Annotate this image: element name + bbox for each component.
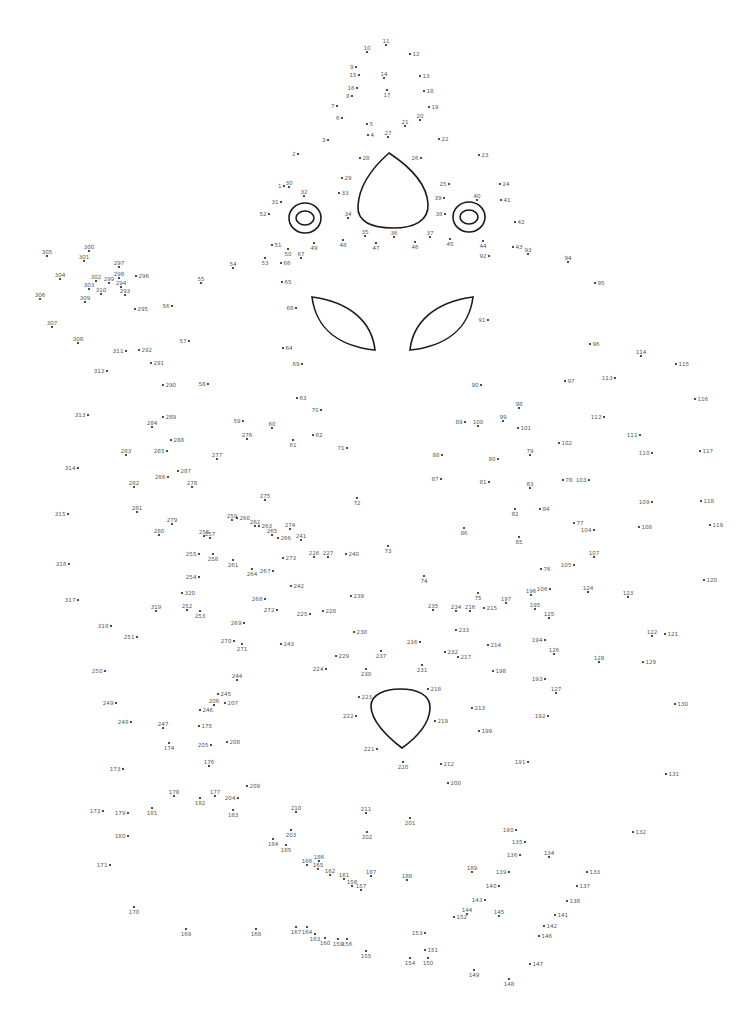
dot-marker[interactable] bbox=[134, 308, 136, 310]
dot-marker[interactable] bbox=[177, 470, 179, 472]
dot-marker[interactable] bbox=[84, 301, 86, 303]
dot-marker[interactable] bbox=[558, 442, 560, 444]
dot-marker[interactable] bbox=[327, 139, 329, 141]
dot-marker[interactable] bbox=[136, 511, 138, 513]
dot-marker[interactable] bbox=[254, 525, 256, 527]
dot-marker[interactable] bbox=[289, 528, 291, 530]
dot-marker[interactable] bbox=[243, 622, 245, 624]
dot-86[interactable]: 86 bbox=[460, 527, 468, 536]
dot-marker[interactable] bbox=[387, 136, 389, 138]
dot-marker[interactable] bbox=[500, 199, 502, 201]
dot-marker[interactable] bbox=[492, 670, 494, 672]
dot-marker[interactable] bbox=[186, 609, 188, 611]
dot-25[interactable]: 25 bbox=[439, 181, 450, 187]
dot-2[interactable]: 2 bbox=[292, 151, 299, 157]
dot-marker[interactable] bbox=[325, 668, 327, 670]
dot-marker[interactable] bbox=[498, 915, 500, 917]
dot-marker[interactable] bbox=[102, 810, 104, 812]
dot-185[interactable]: 185 bbox=[281, 844, 292, 853]
dot-219[interactable]: 219 bbox=[434, 718, 449, 724]
dot-313[interactable]: 313 bbox=[75, 412, 89, 418]
dot-marker[interactable] bbox=[487, 644, 489, 646]
dot-125[interactable]: 125 bbox=[544, 611, 555, 619]
dot-109[interactable]: 109 bbox=[639, 499, 653, 505]
dot-96[interactable]: 96 bbox=[589, 341, 600, 347]
dot-marker[interactable] bbox=[246, 438, 248, 440]
dot-marker[interactable] bbox=[423, 90, 425, 92]
dot-marker[interactable] bbox=[216, 458, 218, 460]
dot-27[interactable]: 27 bbox=[384, 130, 392, 138]
dot-marker[interactable] bbox=[59, 278, 61, 280]
dot-95[interactable]: 95 bbox=[594, 280, 605, 286]
dot-marker[interactable] bbox=[598, 661, 600, 663]
dot-170[interactable]: 170 bbox=[129, 906, 140, 915]
dot-272[interactable]: 272 bbox=[264, 607, 278, 613]
dot-145[interactable]: 145 bbox=[494, 909, 505, 917]
dot-36[interactable]: 36 bbox=[390, 230, 398, 238]
dot-marker[interactable] bbox=[548, 856, 550, 858]
dot-52[interactable]: 52 bbox=[259, 211, 270, 217]
dot-155[interactable]: 155 bbox=[361, 950, 372, 959]
dot-190[interactable]: 190 bbox=[503, 827, 517, 833]
dot-marker[interactable] bbox=[104, 670, 106, 672]
dot-marker[interactable] bbox=[499, 183, 501, 185]
dot-244[interactable]: 244 bbox=[232, 673, 243, 681]
dot-marker[interactable] bbox=[366, 123, 368, 125]
dot-58[interactable]: 58 bbox=[198, 381, 209, 387]
dot-marker[interactable] bbox=[224, 702, 226, 704]
dot-marker[interactable] bbox=[428, 106, 430, 108]
dot-51[interactable]: 51 bbox=[271, 242, 282, 248]
dot-239[interactable]: 239 bbox=[350, 593, 365, 599]
dot-7[interactable]: 7 bbox=[331, 103, 338, 109]
dot-85[interactable]: 85 bbox=[515, 536, 523, 545]
dot-62[interactable]: 62 bbox=[312, 432, 323, 438]
dot-294[interactable]: 294 bbox=[116, 280, 127, 288]
dot-224[interactable]: 224 bbox=[313, 666, 327, 672]
dot-142[interactable]: 142 bbox=[543, 923, 557, 929]
dot-173[interactable]: 173 bbox=[110, 766, 124, 772]
dot-121[interactable]: 121 bbox=[664, 631, 679, 637]
dot-marker[interactable] bbox=[309, 613, 311, 615]
dot-146[interactable]: 146 bbox=[538, 933, 553, 939]
dot-marker[interactable] bbox=[320, 409, 322, 411]
dot-marker[interactable] bbox=[385, 44, 387, 46]
dot-marker[interactable] bbox=[419, 75, 421, 77]
dot-187[interactable]: 187 bbox=[366, 869, 377, 877]
dot-127[interactable]: 127 bbox=[551, 686, 562, 694]
dot-marker[interactable] bbox=[290, 585, 292, 587]
dot-69[interactable]: 69 bbox=[292, 361, 303, 367]
dot-178[interactable]: 178 bbox=[169, 789, 180, 797]
dot-129[interactable]: 129 bbox=[642, 659, 657, 665]
dot-63[interactable]: 63 bbox=[296, 395, 307, 401]
dot-marker[interactable] bbox=[424, 949, 426, 951]
dot-marker[interactable] bbox=[505, 602, 507, 604]
dot-243[interactable]: 243 bbox=[280, 641, 295, 647]
dot-marker[interactable] bbox=[651, 452, 653, 454]
dot-marker[interactable] bbox=[318, 860, 320, 862]
dot-marker[interactable] bbox=[317, 868, 319, 870]
dot-299[interactable]: 299 bbox=[104, 276, 115, 284]
dot-33[interactable]: 33 bbox=[338, 190, 349, 196]
dot-marker[interactable] bbox=[106, 370, 108, 372]
dot-marker[interactable] bbox=[588, 479, 590, 481]
dot-53[interactable]: 53 bbox=[261, 257, 269, 266]
dot-208[interactable]: 208 bbox=[226, 739, 241, 745]
dot-marker[interactable] bbox=[443, 197, 445, 199]
dot-179[interactable]: 179 bbox=[115, 810, 129, 816]
dot-marker[interactable] bbox=[288, 186, 290, 188]
dot-186[interactable]: 186 bbox=[314, 854, 325, 862]
dot-312[interactable]: 312 bbox=[94, 368, 108, 374]
dot-marker[interactable] bbox=[171, 305, 173, 307]
dot-138[interactable]: 138 bbox=[566, 898, 581, 904]
dot-87[interactable]: 87 bbox=[431, 476, 442, 482]
dot-marker[interactable] bbox=[406, 879, 408, 881]
dot-marker[interactable] bbox=[638, 526, 640, 528]
dot-309[interactable]: 309 bbox=[80, 295, 91, 303]
dot-marker[interactable] bbox=[306, 864, 308, 866]
dot-135[interactable]: 135 bbox=[512, 839, 526, 845]
dot-marker[interactable] bbox=[88, 250, 90, 252]
dot-201[interactable]: 201 bbox=[405, 817, 416, 826]
dot-marker[interactable] bbox=[665, 773, 667, 775]
dot-marker[interactable] bbox=[108, 282, 110, 284]
dot-marker[interactable] bbox=[150, 362, 152, 364]
